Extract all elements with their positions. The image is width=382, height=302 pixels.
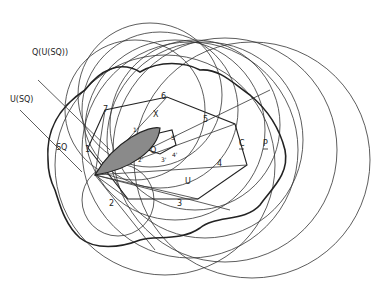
circle-d [85,40,265,220]
label-v6: 6 [161,92,166,101]
label-p: P [263,139,268,148]
label-q-u-sq: Q(U(SQ)) [32,48,68,57]
label-v3: 3 [177,199,182,208]
label-v7: 7 [103,105,108,114]
label-v5: 5 [203,115,208,124]
polygon-1-7 [88,97,247,199]
label-x: X [153,110,159,119]
spokes [20,80,270,250]
label-p1: 1' [133,126,139,133]
label-p2: 2' [138,156,144,163]
label-p3: 3' [161,156,167,163]
label-p5: 5' [171,134,177,141]
u-sq-boundary [48,64,286,247]
label-o: O [150,146,156,155]
label-c: C [239,139,245,148]
label-u: U [185,177,191,186]
label-v4: 4 [217,159,222,168]
geometric-diagram: Q(U(SQ)) U(SQ) SQ X O U C P 1 2 3 4 5 6 … [0,0,382,302]
label-v2: 2 [109,199,114,208]
label-u-sq: U(SQ) [10,95,33,104]
label-p4: 4' [172,151,178,158]
label-sq: SQ [56,143,67,152]
label-v1: 1 [85,145,90,154]
circle-p [134,42,370,278]
circles [55,23,370,278]
